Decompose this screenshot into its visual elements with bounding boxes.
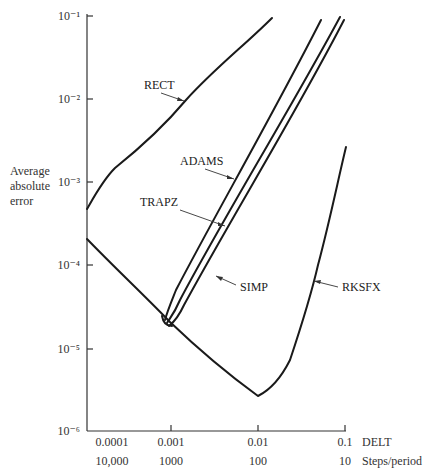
svg-text:error: error xyxy=(10,194,33,208)
x2-tick-label: 1000 xyxy=(159,454,183,468)
svg-text:Average: Average xyxy=(10,164,50,178)
x2-axis-title: Steps/period xyxy=(362,454,422,468)
x2-tick-label: 10 xyxy=(339,454,351,468)
y-tick-label: 10⁻⁴ xyxy=(57,258,80,272)
x-axis-title: DELT xyxy=(362,435,392,449)
rksfx-curve xyxy=(87,147,346,396)
y-tick-label: 10⁻¹ xyxy=(58,9,80,23)
rksfx-label: RKSFX xyxy=(342,280,381,294)
y-tick-label: 10⁻² xyxy=(58,92,80,106)
x2-tick-label: 100 xyxy=(249,454,267,468)
arrowhead-icon xyxy=(177,97,184,101)
rect-curve xyxy=(87,18,272,209)
y-tick-label: 10⁻⁶ xyxy=(57,424,80,438)
svg-text:absolute: absolute xyxy=(10,179,50,193)
x-tick-label: 0.1 xyxy=(338,435,353,449)
adams-label: ADAMS xyxy=(180,154,223,168)
trapz-label: TRAPZ xyxy=(140,195,178,209)
error-vs-stepsize-chart: 10⁻¹ 10⁻² 10⁻³ 10⁻⁴ 10⁻⁵ 10⁻⁶ Average ab… xyxy=(0,0,428,475)
adams-curve xyxy=(165,20,321,320)
rect-label: RECT xyxy=(144,78,175,92)
x-tick-label: 0.01 xyxy=(248,435,269,449)
arrowhead-icon xyxy=(216,276,223,281)
y-ticks: 10⁻¹ 10⁻² 10⁻³ 10⁻⁴ 10⁻⁵ 10⁻⁶ xyxy=(57,9,93,438)
simp-label: SIMP xyxy=(240,280,268,294)
x-tick-label: 0.0001 xyxy=(96,435,129,449)
y-tick-label: 10⁻³ xyxy=(58,175,80,189)
x2-tick-label: 10,000 xyxy=(96,454,129,468)
y-axis-title: Average absolute error xyxy=(10,164,50,208)
x-tick-label: 0.001 xyxy=(158,435,185,449)
y-tick-label: 10⁻⁵ xyxy=(57,342,80,356)
